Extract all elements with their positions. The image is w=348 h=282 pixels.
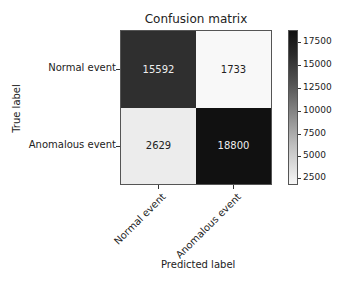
colorbar-tick — [298, 178, 301, 179]
colorbar — [288, 30, 298, 185]
y-axis-title: True label — [11, 84, 22, 133]
x-axis-title: Predicted label — [161, 259, 235, 270]
y-tick-label-anomalous: Anomalous event — [29, 139, 116, 150]
colorbar-tick — [298, 88, 301, 89]
cell-normal-normal: 15592 — [121, 31, 196, 108]
colorbar-label: 17500 — [303, 36, 332, 46]
colorbar-label: 7500 — [303, 128, 326, 138]
chart-title: Confusion matrix — [120, 12, 272, 26]
colorbar-label: 2500 — [303, 172, 326, 182]
colorbar-label: 15000 — [303, 59, 332, 69]
colorbar-label: 5000 — [303, 150, 326, 160]
confusion-matrix: 15592 1733 2629 18800 — [120, 30, 272, 185]
x-tick-label-normal: Normal event — [112, 191, 168, 247]
cell-anomalous-anomalous: 18800 — [196, 108, 271, 185]
x-tick — [158, 185, 159, 189]
cell-normal-anomalous: 1733 — [196, 31, 271, 108]
y-tick-label-normal: Normal event — [48, 62, 116, 73]
colorbar-tick — [298, 156, 301, 157]
cell-anomalous-normal: 2629 — [121, 108, 196, 185]
x-tick-label-anomalous: Anomalous event — [173, 191, 242, 260]
colorbar-label: 12500 — [303, 82, 332, 92]
colorbar-tick — [298, 111, 301, 112]
y-tick — [116, 69, 120, 70]
colorbar-tick — [298, 42, 301, 43]
colorbar-tick — [298, 134, 301, 135]
x-tick — [233, 185, 234, 189]
y-tick — [116, 146, 120, 147]
colorbar-tick — [298, 65, 301, 66]
colorbar-label: 10000 — [303, 105, 332, 115]
